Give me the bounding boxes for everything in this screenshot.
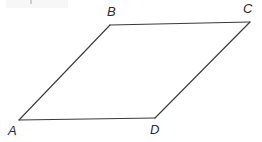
parallelogram-outline [19, 22, 250, 120]
vertex-label-b: B [107, 5, 116, 18]
vertex-label-c: C [243, 2, 252, 15]
edge-DA [19, 118, 155, 120]
edge-CD [155, 22, 250, 118]
edge-AB [19, 25, 110, 120]
vertex-label-d: D [150, 123, 159, 136]
parallelogram-svg [0, 0, 262, 142]
figure-canvas: A B C D [0, 0, 262, 142]
edge-BC [110, 22, 250, 25]
vertex-label-a: A [8, 124, 17, 137]
